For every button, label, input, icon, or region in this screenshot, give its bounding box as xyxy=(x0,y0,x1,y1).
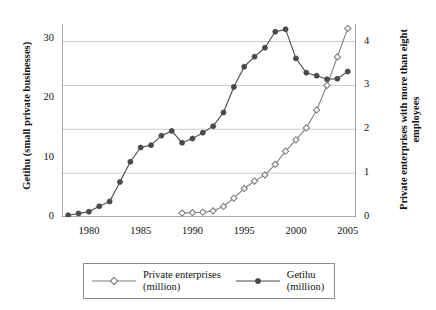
legend-entry[interactable]: Private enterprises (million) xyxy=(84,264,221,298)
marker-filled-circle xyxy=(66,213,71,217)
y-tick-label-left: 30 xyxy=(32,32,54,43)
marker-filled-circle xyxy=(262,45,267,50)
marker-filled-circle xyxy=(180,140,185,145)
marker-filled-circle xyxy=(345,69,350,74)
plot-svg xyxy=(62,24,356,217)
legend-marker-open-diamond xyxy=(110,277,117,284)
chart-figure: Getihu (small private businesses) Privat… xyxy=(0,0,436,310)
marker-filled-circle xyxy=(252,54,257,59)
marker-open-diamond xyxy=(200,209,206,215)
x-tick-label: 1990 xyxy=(170,225,214,236)
marker-open-diamond xyxy=(334,54,340,60)
marker-open-diamond xyxy=(210,208,216,214)
y-tick-label-right: 4 xyxy=(364,35,386,46)
marker-open-diamond xyxy=(179,210,185,216)
marker-filled-circle xyxy=(159,133,164,138)
y-tick-label-right: 2 xyxy=(364,122,386,133)
marker-filled-circle xyxy=(117,179,122,184)
plot-area xyxy=(62,24,356,217)
y-tick-label-right: 0 xyxy=(364,210,386,221)
x-tick-label: 2005 xyxy=(326,225,370,236)
series-line xyxy=(68,29,348,215)
legend-entry[interactable]: Getihu (million) xyxy=(221,264,324,298)
marker-filled-circle xyxy=(293,56,298,61)
legend-marker-filled-circle xyxy=(255,278,260,283)
y-tick-label-right: 3 xyxy=(364,78,386,89)
series-line xyxy=(182,28,348,213)
x-tick-label: 1985 xyxy=(119,225,163,236)
y-tick-label-left: 0 xyxy=(32,210,54,221)
marker-open-diamond xyxy=(189,210,195,216)
marker-open-diamond xyxy=(314,107,320,113)
marker-filled-circle xyxy=(107,199,112,204)
marker-filled-circle xyxy=(221,110,226,115)
marker-filled-circle xyxy=(314,73,319,78)
marker-open-diamond xyxy=(324,82,330,88)
marker-filled-circle xyxy=(190,136,195,141)
marker-filled-circle xyxy=(97,204,102,209)
x-tick-label: 1995 xyxy=(222,225,266,236)
legend-marker-sample xyxy=(235,274,281,288)
legend-marker-sample xyxy=(91,274,137,288)
x-tick-label: 1980 xyxy=(67,225,111,236)
marker-filled-circle xyxy=(138,145,143,150)
marker-filled-circle xyxy=(335,76,340,81)
marker-open-diamond xyxy=(345,25,351,31)
marker-filled-circle xyxy=(128,159,133,164)
marker-filled-circle xyxy=(231,84,236,89)
chart-legend: Private enterprises (million)Getihu (mil… xyxy=(83,263,335,299)
x-tick-label: 2000 xyxy=(274,225,318,236)
y-axis-left-title: Getihu (small private businesses) xyxy=(21,16,33,216)
y-tick-label-right: 1 xyxy=(364,166,386,177)
y-tick-label-left: 20 xyxy=(32,91,54,102)
marker-filled-circle xyxy=(149,143,154,148)
marker-filled-circle xyxy=(242,64,247,69)
marker-filled-circle xyxy=(86,209,91,214)
marker-filled-circle xyxy=(200,130,205,135)
marker-filled-circle xyxy=(76,211,81,216)
y-axis-right-title: Private enterprises with more than eight… xyxy=(398,20,421,220)
y-tick-label-left: 10 xyxy=(32,151,54,162)
series-private-enterprises xyxy=(179,25,351,216)
marker-filled-circle xyxy=(304,70,309,75)
series-getihu xyxy=(66,27,351,217)
legend-label: Private enterprises (million) xyxy=(137,269,221,293)
legend-label: Getihu (million) xyxy=(281,269,324,293)
marker-filled-circle xyxy=(211,124,216,129)
marker-filled-circle xyxy=(325,77,330,82)
marker-filled-circle xyxy=(169,128,174,133)
marker-filled-circle xyxy=(283,27,288,32)
marker-filled-circle xyxy=(273,29,278,34)
